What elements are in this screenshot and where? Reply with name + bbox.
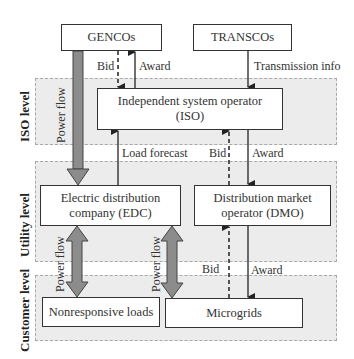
dmo-label-line2: operator (DMO) [221, 206, 303, 221]
dmo-label-line1: Distribution market [213, 191, 311, 206]
power-flow-nonresponsive-label: Power flow [53, 236, 68, 292]
edc-label-line1: Electric distribution [61, 191, 161, 206]
transcos-node: TRANSCOs [193, 24, 292, 51]
power-flow-gencos-label: Power flow [54, 87, 69, 143]
microgrids-label: Microgrids [206, 306, 262, 321]
microgrids-node: Microgrids [165, 298, 303, 328]
edc-node: Electric distribution company (EDC) [40, 185, 181, 226]
load-forecast-label: Load forecast [122, 146, 188, 161]
nonresponsive-loads-label: Nonresponsive loads [49, 305, 154, 320]
transmission-info-label: Transmission info [254, 59, 341, 74]
iso-label-line1: Independent system operator [118, 94, 262, 109]
gencos-award-label: Award [139, 59, 171, 74]
dmo-bid-label: Bid [209, 146, 226, 161]
power-flow-double-arrow-edc-microgrids [161, 226, 183, 298]
edc-label-line2: company (EDC) [69, 206, 151, 221]
iso-label-line2: (ISO) [176, 109, 204, 124]
power-flow-arrow-gencos-edc [67, 51, 89, 185]
power-flow-microgrids-label: Power flow [149, 236, 164, 292]
gencos-bid-label: Bid [97, 59, 114, 74]
microgrids-award-label: Award [251, 263, 283, 278]
transcos-label: TRANSCOs [211, 30, 274, 45]
dmo-node: Distribution market operator (DMO) [194, 185, 331, 226]
dmo-award-label: Award [252, 146, 284, 161]
iso-node: Independent system operator (ISO) [97, 88, 283, 130]
nonresponsive-loads-node: Nonresponsive loads [42, 297, 160, 327]
gencos-label: GENCOs [88, 30, 136, 45]
microgrids-bid-label: Bid [202, 262, 219, 277]
gencos-node: GENCOs [61, 24, 162, 51]
power-flow-double-arrow-edc-nonresponsive [66, 226, 88, 297]
